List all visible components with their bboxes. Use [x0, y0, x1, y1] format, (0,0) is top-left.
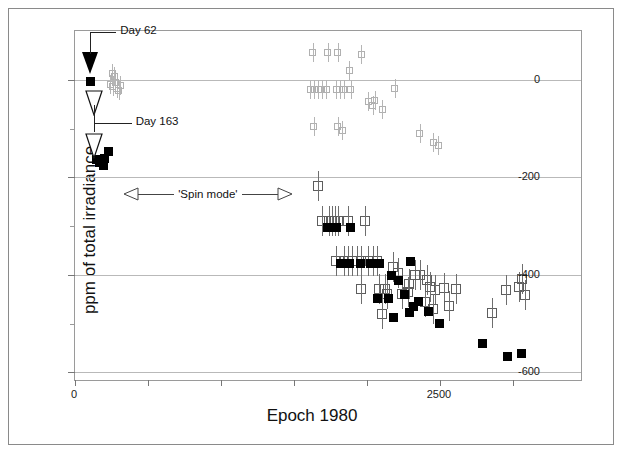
- data-point: [389, 313, 398, 322]
- x-tick: [513, 380, 514, 386]
- data-point: [86, 77, 95, 86]
- spin-mode-arrowhead-right: [277, 187, 293, 205]
- error-bar: [349, 61, 350, 80]
- error-bar: [449, 291, 450, 321]
- error-bar: [361, 45, 362, 64]
- data-point: [424, 307, 433, 316]
- error-bar: [326, 80, 327, 99]
- y-tick-minor: [70, 226, 75, 227]
- error-bar: [382, 100, 383, 119]
- x-tick: [148, 380, 149, 386]
- x-tick: [75, 380, 76, 386]
- error-bar: [382, 299, 383, 329]
- day-62-marker-triangle: [82, 52, 98, 74]
- y-tick-major: [68, 372, 75, 373]
- error-bar: [344, 80, 345, 99]
- x-tick: [367, 380, 368, 386]
- error-bar: [313, 43, 314, 62]
- error-bar: [525, 280, 526, 310]
- data-point: [104, 147, 113, 156]
- x-tick: [440, 380, 441, 386]
- error-bar: [351, 80, 352, 99]
- gridline: [75, 372, 581, 373]
- data-point: [346, 223, 355, 232]
- x-tick-label: 0: [71, 388, 77, 400]
- error-bar: [361, 274, 362, 304]
- spin-mode-arrow-line-left: [137, 194, 174, 195]
- day-163-marker-triangle: [85, 133, 103, 159]
- data-point: [345, 259, 354, 268]
- error-bar: [114, 67, 115, 86]
- y-tick-label: -200: [518, 170, 540, 182]
- y-tick-major: [68, 177, 75, 178]
- day-163-leader-vertical: [94, 105, 95, 132]
- y-tick-label: -400: [518, 268, 540, 280]
- error-bar: [375, 91, 376, 110]
- error-bar: [314, 117, 315, 136]
- error-bar: [438, 136, 439, 155]
- chart-page: ppm of total irradiance Epoch 1980 Day 6…: [0, 0, 624, 459]
- error-bar: [430, 272, 431, 302]
- y-tick-minor: [70, 324, 75, 325]
- gridline: [75, 80, 581, 81]
- error-bar: [318, 171, 319, 201]
- plot-area: Day 62Day 163'Spin mode': [74, 30, 582, 381]
- error-bar: [328, 43, 329, 62]
- data-point: [373, 294, 382, 303]
- error-bar: [492, 298, 493, 328]
- data-point: [375, 259, 384, 268]
- data-point: [478, 339, 487, 348]
- error-bar: [365, 206, 366, 236]
- data-point: [503, 352, 512, 361]
- error-bar: [420, 124, 421, 143]
- spin-mode-arrow-line-right: [242, 194, 279, 195]
- x-tick: [294, 380, 295, 386]
- day-62-label: Day 62: [120, 24, 156, 36]
- error-bar: [395, 79, 396, 98]
- y-tick-major: [68, 80, 75, 81]
- y-tick-label: -600: [518, 365, 540, 377]
- error-bar: [342, 121, 343, 140]
- spin-mode-label: 'Spin mode': [178, 188, 237, 200]
- x-tick-label: 2500: [427, 388, 451, 400]
- day-62-leader-vertical: [90, 32, 91, 54]
- day-62-leader-horizontal: [90, 32, 116, 33]
- spin-mode-arrowhead-left: [123, 187, 139, 205]
- x-tick: [221, 380, 222, 386]
- y-tick-major: [68, 275, 75, 276]
- error-bar: [338, 43, 339, 62]
- error-bar: [435, 275, 436, 305]
- data-point: [332, 223, 341, 232]
- data-point: [435, 319, 444, 328]
- error-bar: [444, 273, 445, 303]
- y-tick-minor: [70, 129, 75, 130]
- error-bar: [433, 294, 434, 324]
- data-point: [517, 349, 526, 358]
- data-point: [356, 259, 365, 268]
- y-tick-label: 0: [534, 73, 540, 85]
- error-bar: [506, 275, 507, 305]
- data-point: [400, 290, 409, 299]
- data-point: [406, 257, 415, 266]
- x-axis-title: Epoch 1980: [0, 406, 624, 426]
- error-bar: [456, 274, 457, 304]
- data-point: [405, 308, 414, 317]
- data-point: [394, 276, 403, 285]
- error-bar: [120, 76, 121, 95]
- gridline: [75, 177, 581, 178]
- data-point: [384, 294, 393, 303]
- day-163-leader-horizontal: [94, 123, 132, 124]
- day-163-label: Day 163: [136, 115, 179, 127]
